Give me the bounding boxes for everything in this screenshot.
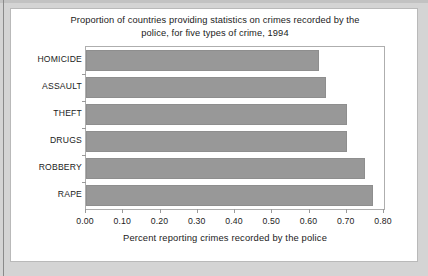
- x-axis-tick: [346, 209, 347, 213]
- y-axis-tick: [82, 74, 86, 75]
- plot-area: [85, 46, 385, 210]
- bar-row: [86, 182, 384, 209]
- x-axis-tick: [234, 209, 235, 213]
- y-axis-label-drugs: DRUGS: [6, 135, 82, 145]
- x-axis-tick: [383, 209, 384, 213]
- y-axis-labels: HOMICIDEASSAULTTHEFTDRUGSROBBERYRAPE: [2, 46, 82, 208]
- bar-rape: [86, 185, 373, 206]
- x-axis-tick-label: 0.30: [177, 216, 217, 226]
- x-axis: 0.000.100.200.300.400.500.600.700.80: [85, 208, 385, 254]
- bar-drugs: [86, 131, 347, 152]
- chart-title: Proportion of countries providing statis…: [22, 14, 408, 40]
- scanned-page: Proportion of countries providing statis…: [0, 0, 428, 276]
- bar-row: [86, 128, 384, 155]
- x-axis-tick: [160, 209, 161, 213]
- bar-theft: [86, 104, 347, 125]
- bar-robbery: [86, 158, 365, 179]
- x-axis-tick: [309, 209, 310, 213]
- x-axis-tick: [197, 209, 198, 213]
- x-axis-tick-label: 0.40: [214, 216, 254, 226]
- chart-title-line-2: police, for five types of crime, 1994: [22, 27, 408, 40]
- y-axis-label-robbery: ROBBERY: [6, 162, 82, 172]
- x-axis-tick-label: 0.00: [65, 216, 105, 226]
- bar-assault: [86, 77, 326, 98]
- bar-row: [86, 101, 384, 128]
- y-axis-label-assault: ASSAULT: [6, 81, 82, 91]
- bar-row: [86, 47, 384, 74]
- x-axis-tick-label: 0.60: [289, 216, 329, 226]
- y-axis-label-homicide: HOMICIDE: [6, 54, 82, 64]
- y-axis-label-rape: RAPE: [6, 189, 82, 199]
- y-axis-label-theft: THEFT: [6, 108, 82, 118]
- x-axis-title: Percent reporting crimes recorded by the…: [40, 232, 410, 243]
- y-axis-tick: [82, 155, 86, 156]
- page-top-edge: [0, 0, 428, 3]
- x-axis-tick: [122, 209, 123, 213]
- y-axis-tick: [82, 128, 86, 129]
- x-axis-tick: [271, 209, 272, 213]
- x-axis-tick-label: 0.80: [363, 216, 403, 226]
- x-axis-tick: [85, 209, 86, 213]
- y-axis-tick: [82, 182, 86, 183]
- bar-row: [86, 74, 384, 101]
- bar-homicide: [86, 50, 319, 71]
- x-axis-tick-label: 0.70: [326, 216, 366, 226]
- x-axis-tick-label: 0.20: [140, 216, 180, 226]
- x-axis-tick-label: 0.50: [251, 216, 291, 226]
- y-axis-tick: [82, 101, 86, 102]
- x-axis-tick-label: 0.10: [102, 216, 142, 226]
- bar-row: [86, 155, 384, 182]
- chart-title-line-1: Proportion of countries providing statis…: [70, 15, 359, 25]
